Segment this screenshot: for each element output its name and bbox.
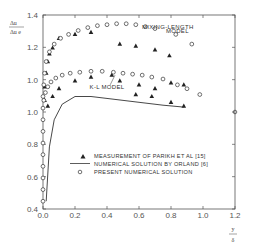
y-axis-label-numerator: Δu — [10, 20, 17, 26]
x-tick-label: 1.2 — [229, 211, 241, 220]
y-axis-label-denominator: Δu e — [10, 29, 21, 35]
series-triangle — [42, 30, 186, 108]
y-tick-label: 0.6 — [27, 173, 39, 182]
circle-marker-icon — [78, 170, 82, 174]
x-axis-ticks: 0.00.20.40.60.81.01.2 — [37, 15, 241, 220]
x-axis-label: y δ — [229, 226, 237, 243]
y-tick-label: 0.8 — [27, 140, 39, 149]
plot-frame — [43, 15, 235, 209]
annotation-label: K-L MODEL — [90, 84, 125, 90]
x-tick-label: 0.0 — [37, 211, 49, 220]
y-axis-label: Δu Δu e — [9, 20, 24, 35]
x-axis-label-denominator: δ — [232, 237, 235, 243]
series-line — [46, 97, 184, 202]
series-layer — [41, 22, 202, 203]
triangle-marker-icon — [81, 154, 86, 159]
x-tick-label: 1.0 — [197, 211, 209, 220]
series-circle — [41, 22, 194, 203]
x-tick-label: 0.2 — [69, 211, 81, 220]
x-tick-label: 0.8 — [165, 211, 177, 220]
y-tick-label: 1.2 — [27, 43, 39, 52]
annotation-label: MODEL — [166, 28, 189, 34]
y-tick-label: 1.4 — [27, 11, 39, 20]
x-axis-label-numerator: y — [232, 226, 235, 232]
legend-item-present: PRESENT NUMERICAL SOLUTION — [78, 169, 192, 175]
legend-label-measurement: MEASUREMENT OF PARIKH ET AL [15] — [94, 153, 206, 159]
legend-item-measurement: MEASUREMENT OF PARIKH ET AL [15] — [81, 153, 206, 159]
annotations: MIXING-LENGTHMODELK-L MODEL — [90, 24, 194, 90]
legend-label-present: PRESENT NUMERICAL SOLUTION — [94, 169, 193, 175]
x-tick-label: 0.4 — [101, 211, 113, 220]
legend-item-orland: NUMERICAL SOLUTION BY ORLAND [6] — [70, 161, 208, 167]
x-tick-label: 0.6 — [133, 211, 145, 220]
y-tick-label: 1.0 — [27, 76, 39, 85]
legend: MEASUREMENT OF PARIKH ET AL [15] NUMERIC… — [70, 153, 208, 175]
chart: 0.00.20.40.60.81.01.2 1.41.21.01.00.80.6… — [0, 0, 254, 249]
legend-label-orland: NUMERICAL SOLUTION BY ORLAND [6] — [94, 161, 208, 167]
y-tick-label: 1.0 — [27, 108, 39, 117]
y-tick-label: 0.4 — [27, 205, 39, 214]
